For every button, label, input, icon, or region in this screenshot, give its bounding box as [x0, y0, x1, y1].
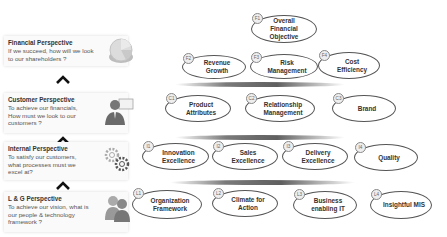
- chevron-up-icon: [56, 75, 70, 85]
- gears-icon: [102, 146, 132, 174]
- perspective-desc: To achieve our vision, what is our peopl…: [8, 203, 92, 226]
- objective-node[interactable]: F2 Revenue Growth: [182, 55, 246, 79]
- objective-node[interactable]: I3 Delivery Excellence: [282, 143, 348, 170]
- objective-label: Relationship Management: [245, 95, 315, 122]
- row-divider: [175, 82, 345, 87]
- row-divider: [175, 135, 345, 140]
- objective-node[interactable]: F3 Risk Management: [250, 54, 318, 79]
- objective-label: Quality: [354, 144, 418, 171]
- objective-node[interactable]: I4 Quality: [354, 144, 418, 171]
- objective-node[interactable]: C2 Relationship Management: [245, 95, 315, 122]
- objective-label: Overall Financial Objective: [251, 15, 317, 43]
- perspective-desc: To achieve our financials, How must we l…: [8, 104, 86, 127]
- objective-label: Climate for Action: [212, 190, 278, 217]
- objective-label: Product Attributes: [165, 95, 231, 122]
- perspective-desc: To satisfy our customers, what processes…: [8, 153, 88, 176]
- objective-node[interactable]: C1 Product Attributes: [165, 95, 231, 122]
- watermark-text: [345, 8, 349, 23]
- perspective-internal: Internal Perspective To satisfy our cust…: [4, 142, 128, 180]
- objective-node[interactable]: L4 Insightful MIS: [370, 191, 432, 219]
- objective-label: Innovation Excellence: [142, 143, 209, 170]
- objective-label: Cost Efficiency: [318, 52, 380, 79]
- perspective-customer: Customer Perspective To achieve our fina…: [4, 93, 128, 133]
- objective-node[interactable]: F1 Overall Financial Objective: [251, 15, 317, 43]
- objective-label: Sales Excellence: [212, 143, 278, 170]
- objective-label: Brand: [332, 95, 396, 122]
- objective-label: Risk Management: [250, 54, 318, 79]
- objective-node[interactable]: I1 Innovation Excellence: [142, 143, 209, 170]
- objective-label: Organization Framework: [132, 190, 202, 219]
- perspective-learning-growth: L & G Perspective To achieve our vision,…: [4, 192, 128, 232]
- objective-node[interactable]: L1 Organization Framework: [132, 190, 202, 219]
- objective-label: Business enabling IT: [293, 191, 357, 219]
- objective-node[interactable]: F4 Cost Efficiency: [318, 52, 380, 79]
- businessman-icon: [104, 95, 134, 127]
- objective-node[interactable]: C3 Brand: [332, 95, 396, 122]
- objective-node[interactable]: L3 Business enabling IT: [293, 191, 357, 219]
- perspective-financial: Financial Perspective If we succeed, how…: [4, 36, 128, 66]
- perspective-desc: If we succeed, how will we look to our s…: [8, 47, 100, 62]
- objective-node[interactable]: I2 Sales Excellence: [212, 143, 278, 170]
- objective-label: Delivery Excellence: [282, 143, 348, 170]
- objective-node[interactable]: L2 Climate for Action: [212, 190, 278, 217]
- pie-chart-icon: [106, 38, 136, 66]
- objective-label: Revenue Growth: [182, 55, 246, 79]
- row-divider: [170, 180, 355, 185]
- objective-label: Insightful MIS: [370, 191, 432, 219]
- chevron-up-icon: [56, 181, 70, 191]
- people-icon: [102, 194, 132, 222]
